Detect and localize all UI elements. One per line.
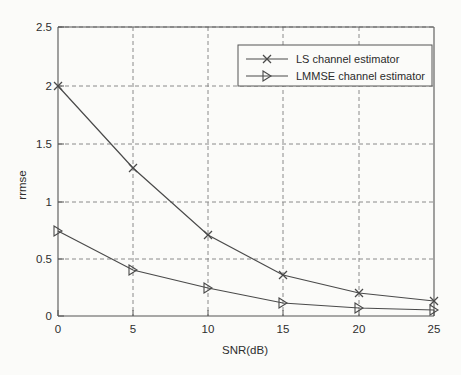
y-tick-label-0.5: 0.5 [36,253,52,265]
legend-label-ls: LS channel estimator [296,53,400,65]
y-tick-label-0: 0 [46,310,52,322]
x-axis-title: SNR(dB) [222,344,268,356]
x-tick-label-25: 25 [428,323,441,335]
chart-legend[interactable]: LS channel estimator LMMSE channel estim… [238,45,432,86]
x-tick-label-5: 5 [130,323,136,335]
y-axis-title: rrmse [16,170,28,199]
y-tick-label-2: 2 [46,80,52,92]
y-tick-label-1.5: 1.5 [36,138,52,150]
x-tick-label-20: 20 [353,323,366,335]
x-tick-label-10: 10 [202,323,215,335]
x-tick-label-15: 15 [277,323,290,335]
chart-canvas: 2.5 2 1.5 1 0.5 0 0 5 10 15 20 25 SNR(dB… [0,0,461,375]
x-tick-label-0: 0 [55,323,61,335]
chart-figure: 2.5 2 1.5 1 0.5 0 0 5 10 15 20 25 SNR(dB… [0,0,461,375]
y-tick-label-1: 1 [46,196,52,208]
legend-label-lmmse: LMMSE channel estimator [296,70,425,82]
y-tick-label-2.5: 2.5 [36,21,52,33]
